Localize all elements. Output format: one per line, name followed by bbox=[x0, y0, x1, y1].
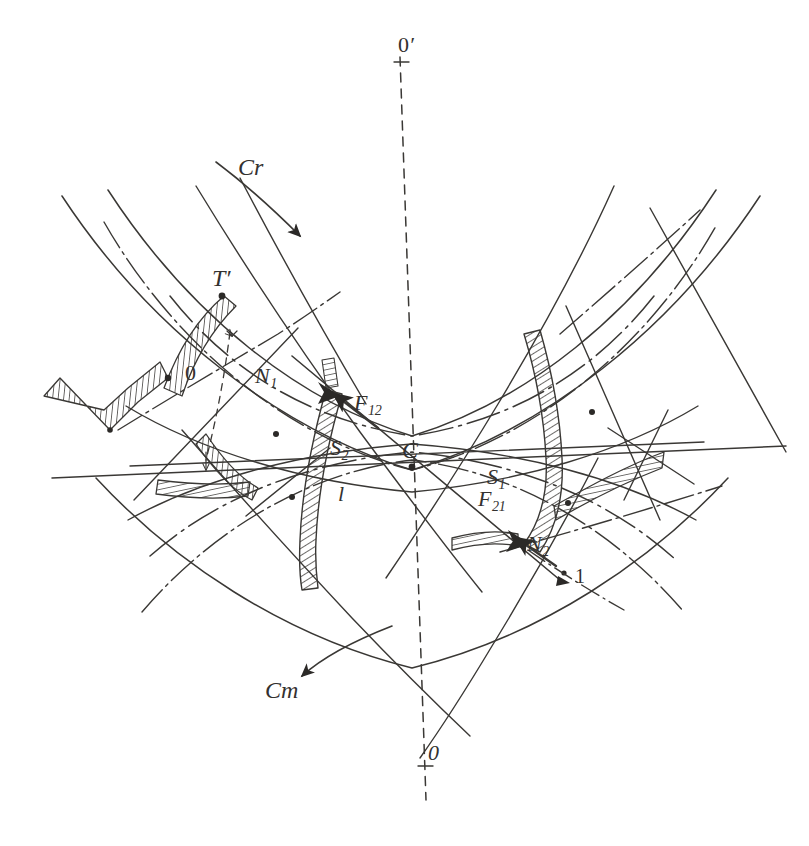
tooth-band-near-n2 bbox=[452, 532, 518, 550]
node-right-upper bbox=[589, 409, 595, 415]
tooth-band-right-lower bbox=[554, 452, 664, 520]
slide-label-s1: S1 bbox=[487, 466, 505, 491]
line-label-l: l bbox=[338, 483, 344, 505]
rotation-label-cr: Cr bbox=[238, 155, 263, 179]
rotation-label-cm: Cm bbox=[265, 678, 298, 702]
common-tangent-line bbox=[52, 446, 786, 478]
point-label-c: C bbox=[402, 438, 418, 462]
tick-tooth-one bbox=[556, 576, 570, 586]
tooth-label-zero: 0 bbox=[185, 362, 196, 384]
node-t-prime bbox=[219, 293, 226, 300]
tooth-label-one: 1 bbox=[575, 566, 585, 586]
diagram-canvas bbox=[0, 0, 809, 846]
node-pitch-point bbox=[409, 464, 416, 471]
axis-centerline bbox=[400, 57, 426, 800]
rotation-arrow-cm bbox=[302, 626, 392, 676]
contact-label-n2: N2 bbox=[527, 533, 549, 558]
node-left-far bbox=[107, 427, 113, 433]
node-right-lower bbox=[565, 500, 571, 506]
force-label-f12: F12 bbox=[354, 392, 382, 417]
flank-curve-right-outer bbox=[386, 186, 614, 578]
contact-label-n1: N1 bbox=[255, 365, 277, 390]
axis-label-bottom: 0 bbox=[428, 742, 439, 764]
tooth-band-left-lower bbox=[156, 434, 258, 500]
point-label-t-prime: T′ bbox=[212, 266, 231, 290]
gear-meshing-figure: 0′ 0 Cr Cm T′ C N1 N2 F12 F21 S1 S2 l 0 … bbox=[0, 0, 809, 846]
slide-label-s2: S2 bbox=[330, 437, 348, 462]
node-mid-left bbox=[273, 431, 279, 437]
node-mid-left-lower bbox=[289, 494, 295, 500]
dashdot-arc-upper-right bbox=[560, 210, 700, 334]
force-label-f21: F21 bbox=[478, 488, 506, 513]
tooth-band-center-left bbox=[300, 390, 342, 590]
addendum-arc-lower-outer bbox=[96, 478, 728, 668]
axis-label-top: 0′ bbox=[398, 34, 414, 56]
flank-curve-right-far bbox=[650, 208, 786, 452]
node-left-upper bbox=[165, 375, 171, 381]
